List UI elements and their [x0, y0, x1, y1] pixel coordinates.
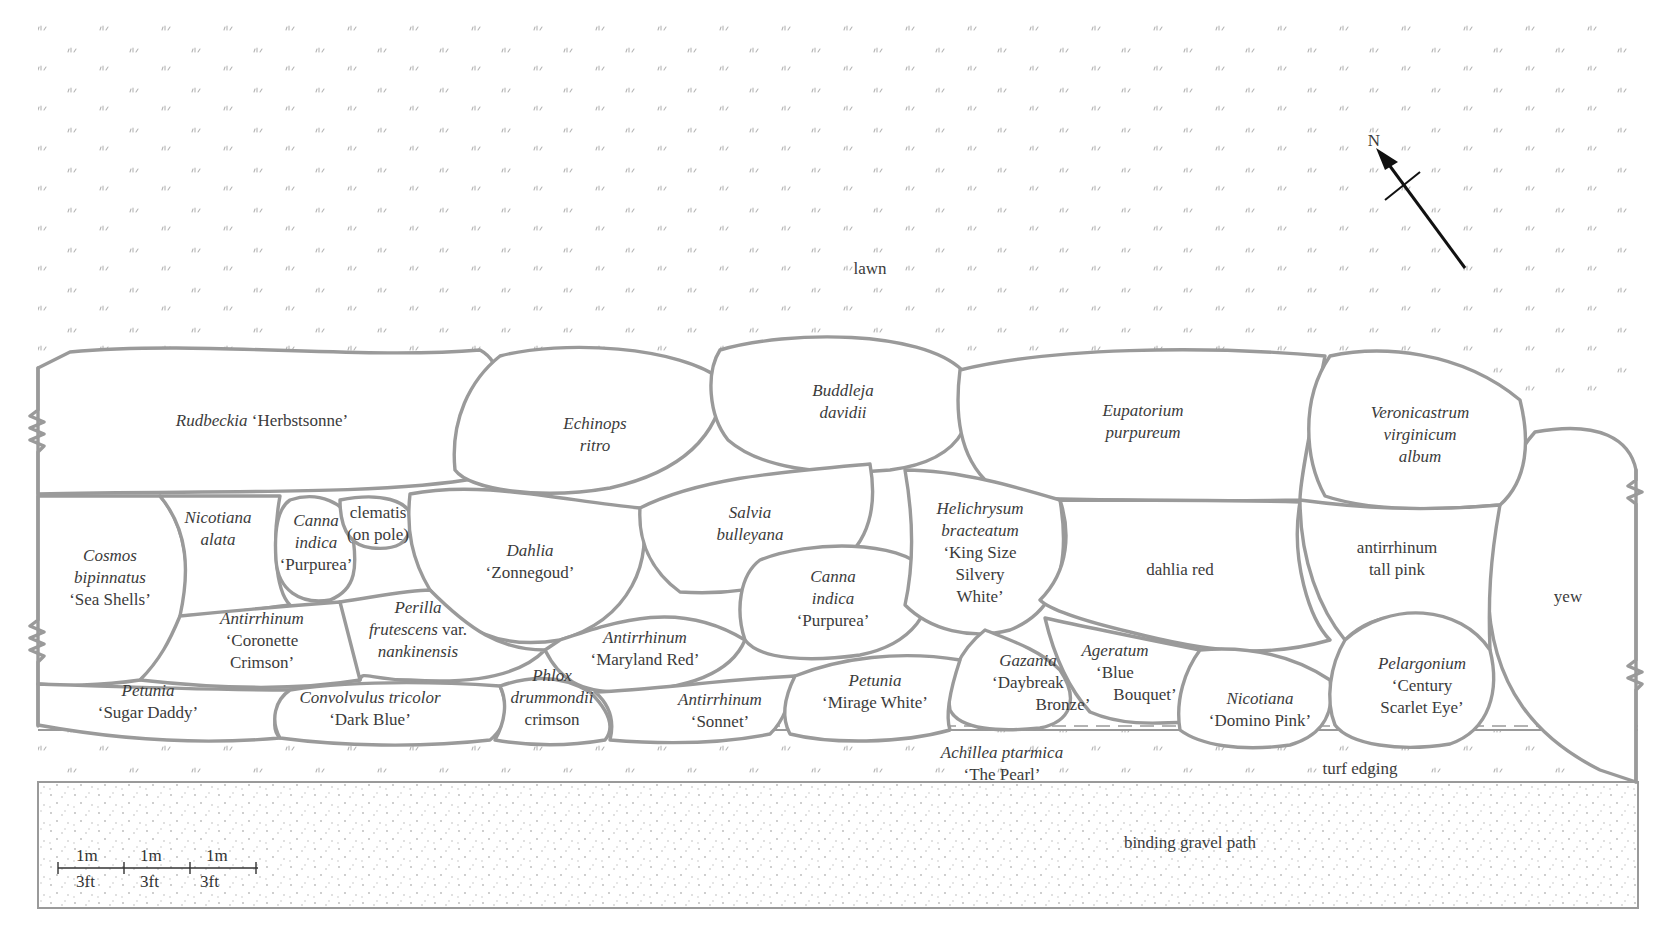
plant-antirrhinum-tall-pink: antirrhinumtall pink: [1357, 537, 1437, 581]
plant-phlox: Phloxdrummondiicrimson: [510, 665, 593, 731]
scale-imperial-2: 3ft: [140, 872, 159, 892]
turf-edging-label: turf edging: [1322, 758, 1397, 780]
scale-imperial-1: 3ft: [76, 872, 95, 892]
plant-canna-left: Cannaindica‘Purpurea’: [280, 510, 353, 576]
gravel-path-label: binding gravel path: [1124, 832, 1256, 854]
plant-antirrhinum-coronette: Antirrhinum‘CoronetteCrimson’: [220, 608, 304, 674]
plant-ageratum: Ageratum‘BlueBouquet’: [1053, 640, 1176, 706]
plant-achillea: Achillea ptarmica‘The Pearl’: [941, 742, 1063, 786]
lawn-label: lawn: [853, 258, 886, 280]
plant-petunia-sugar-daddy: Petunia‘Sugar Daddy’: [98, 680, 199, 724]
plant-petunia-mirage: Petunia‘Mirage White’: [822, 670, 928, 714]
plant-dahlia-red: dahlia red: [1146, 559, 1214, 581]
plant-buddleja: Buddlejadavidii: [812, 380, 873, 424]
plant-eupatorium: Eupatoriumpurpureum: [1102, 400, 1183, 444]
plant-canna-right: Cannaindica‘Purpurea’: [797, 566, 870, 632]
plant-veronicastrum: Veronicastrumvirginicumalbum: [1371, 402, 1470, 468]
plant-pelargonium: Pelargonium‘CenturyScarlet Eye’: [1378, 653, 1466, 719]
gravel-path-area: [38, 782, 1638, 908]
plant-rudbeckia: Rudbeckia ‘Herbstsonne’: [176, 410, 348, 432]
plant-salvia: Salviabulleyana: [716, 502, 783, 546]
scale-imperial-3: 3ft: [200, 872, 219, 892]
plant-perilla: Perilla frutescens var. nankinensis: [369, 597, 467, 663]
plant-antirrhinum-maryland: Antirrhinum‘Maryland Red’: [590, 627, 699, 671]
plant-antirrhinum-sonnet: Antirrhinum‘Sonnet’: [678, 689, 762, 733]
north-label: N: [1368, 130, 1380, 152]
planting-plan-diagram: [0, 0, 1660, 938]
plant-clematis: clematis(on pole): [347, 502, 409, 546]
plant-nicotiana-domino: Nicotiana‘Domino Pink’: [1209, 688, 1311, 732]
plant-cosmos: Cosmosbipinnatus‘Sea Shells’: [69, 545, 151, 611]
yew-label: yew: [1554, 586, 1582, 608]
scale-metric-2: 1m: [140, 846, 162, 866]
plant-echinops: Echinopsritro: [563, 413, 626, 457]
plant-helichrysum: Helichrysumbracteatum‘King SizeSilveryWh…: [937, 498, 1024, 608]
plant-nicotiana-alata: Nicotianaalata: [184, 507, 251, 551]
scale-metric-3: 1m: [206, 846, 228, 866]
plant-dahlia-zonnegoud: Dahlia‘Zonnegoud’: [486, 540, 575, 584]
scale-metric-1: 1m: [76, 846, 98, 866]
plant-convolvulus: Convolvulus tricolor‘Dark Blue’: [299, 687, 440, 731]
